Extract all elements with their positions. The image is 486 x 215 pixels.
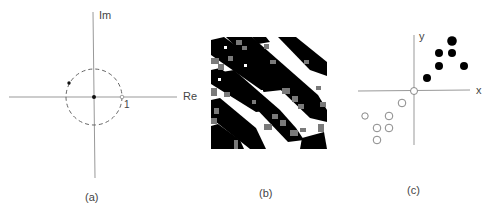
caption-c: (c) [407, 185, 420, 196]
radius-label: 1 [124, 100, 130, 110]
axis-label-x: x [476, 85, 482, 96]
axis-label-y: y [419, 31, 425, 42]
caption-a: (a) [85, 192, 98, 203]
axis-label-im: Im [99, 10, 111, 21]
origin-dot [92, 95, 96, 99]
panel-c: y x (c) [340, 0, 486, 215]
axis-label-re: Re [183, 91, 197, 102]
unit-circle-diagram [0, 0, 200, 215]
open-class-points [362, 88, 418, 144]
caption-b: (b) [259, 188, 272, 199]
circle-point-dot [67, 81, 70, 84]
scatter-plot [340, 0, 486, 215]
filled-class-points [423, 36, 468, 82]
panel-a: Im Re 1 (a) [0, 0, 200, 215]
panel-b: (b) [200, 0, 340, 215]
binary-stripe-image [200, 0, 340, 215]
